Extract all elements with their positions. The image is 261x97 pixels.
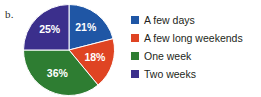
- pie-slice-group: [24, 5, 115, 96]
- legend-color-swatch: [131, 70, 139, 78]
- legend-item[interactable]: A few long weekends: [131, 29, 259, 47]
- pie-slice-data-label: 36%: [47, 67, 69, 79]
- legend-item[interactable]: A few days: [131, 11, 259, 29]
- legend-item[interactable]: Two weeks: [131, 65, 259, 83]
- legend-item-label: One week: [144, 51, 191, 62]
- pie-slice-data-label: 21%: [75, 21, 97, 33]
- panel-label: b.: [5, 8, 14, 20]
- pie-slice-data-label: 25%: [39, 23, 61, 35]
- pie-chart-svg: 21%18%36%25%: [23, 4, 115, 96]
- legend-item[interactable]: One week: [131, 47, 259, 65]
- legend-color-swatch: [131, 34, 139, 42]
- chart-legend: A few daysA few long weekendsOne weekTwo…: [131, 11, 259, 83]
- legend-item-label: Two weeks: [144, 69, 196, 80]
- pie-chart-plot-area: 21%18%36%25%: [23, 4, 115, 96]
- legend-item-label: A few long weekends: [144, 33, 243, 44]
- legend-color-swatch: [131, 16, 139, 24]
- legend-color-swatch: [131, 52, 139, 60]
- pie-chart-figure: b. 21%18%36%25% A few daysA few long wee…: [0, 0, 261, 97]
- pie-slice-data-label: 18%: [84, 51, 106, 63]
- legend-item-label: A few days: [144, 15, 195, 26]
